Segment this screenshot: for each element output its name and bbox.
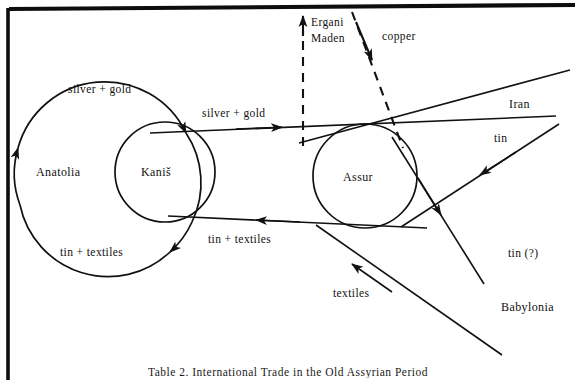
label-tin-question: tin (?)	[508, 247, 539, 260]
silver-gold-export-arrow	[236, 127, 282, 129]
label-ergani-maden-line2: Maden	[311, 32, 345, 44]
figure-page: silver + gold silver + gold tin + textil…	[0, 0, 576, 380]
tin-textiles-import-arrow	[256, 220, 300, 222]
figure-frame	[8, 5, 575, 380]
label-tin-textiles-import: tin + textiles	[208, 233, 271, 245]
figure-caption: Table 2. International Trade in the Old …	[0, 366, 576, 378]
tin-question-arrow	[418, 178, 441, 215]
tin-route-arrow	[480, 152, 516, 175]
frame-top-rule	[9, 5, 575, 9]
label-anatolia: Anatolia	[36, 165, 81, 179]
label-textiles: textiles	[333, 287, 370, 299]
anatolia-arc-bottom-tin-textiles	[170, 222, 192, 252]
label-copper: copper	[382, 30, 416, 43]
label-babylonia: Babylonia	[501, 300, 554, 314]
label-assur: Assur	[343, 170, 373, 184]
copper-arrow	[356, 22, 372, 60]
label-silver-gold-anatolia: silver + gold	[68, 83, 131, 96]
anatolia-arc-bottom-left	[20, 205, 170, 277]
label-tin-textiles-anatolia: tin + textiles	[60, 246, 123, 258]
label-iran: Iran	[509, 97, 530, 111]
trade-diagram: silver + gold silver + gold tin + textil…	[0, 0, 576, 380]
anatolia-arc-left-up-arrow	[14, 148, 20, 205]
label-ergani-maden-line1: Ergani	[311, 16, 344, 29]
tin-route	[401, 124, 559, 227]
tin-question-route	[392, 137, 484, 284]
tin-route-line	[401, 124, 559, 227]
label-silver-gold-export: silver + gold	[202, 107, 265, 120]
label-tin: tin	[494, 132, 507, 144]
label-kanis: Kaniš	[141, 165, 171, 179]
